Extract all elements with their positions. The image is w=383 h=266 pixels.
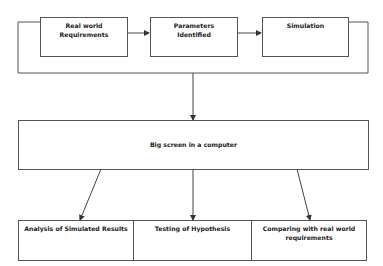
box-label: Big screen in a computer: [150, 141, 237, 150]
box-label-line2: requirements: [252, 234, 366, 243]
box-simulation: Simulation: [262, 17, 349, 57]
box-label-line1: Simulation: [263, 22, 348, 31]
box-label-line1: Comparing with real world: [252, 225, 366, 234]
box-label-line2: Requirements: [41, 31, 127, 40]
box-parameters-identified: Parameters Identified: [150, 17, 238, 57]
box-real-world-requirements: Real world Requirements: [40, 17, 128, 57]
box-analysis: Analysis of Simulated Results: [18, 220, 134, 261]
box-comparing: Comparing with real world requirements: [251, 220, 367, 261]
box-big-screen: Big screen in a computer: [18, 120, 369, 170]
box-label-line1: Real world: [41, 22, 127, 31]
arrow-big-screen-to-comparing: [297, 169, 310, 220]
box-testing: Testing of Hypothesis: [133, 220, 252, 261]
box-label-line1: Parameters: [151, 22, 237, 31]
box-label-line1: Testing of Hypothesis: [134, 225, 251, 234]
box-label-line2: Identified: [151, 31, 237, 40]
box-label-line1: Analysis of Simulated Results: [19, 225, 133, 234]
arrow-big-screen-to-analysis: [80, 169, 101, 220]
